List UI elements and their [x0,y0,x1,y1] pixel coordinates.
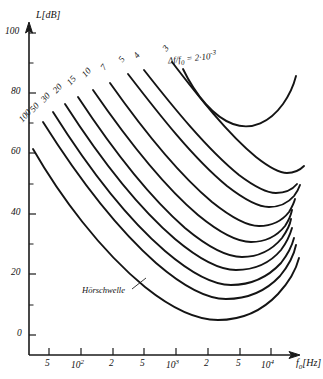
y-tick-label-20: 20 [11,268,21,278]
y-axis-title: L[dB] [36,10,60,20]
x-tick-label-1000: 103 [166,359,179,371]
curve-7 [110,83,295,226]
x-axis-title: f0[Hz] [296,358,321,371]
axis-group [26,22,301,359]
curve-set [33,62,304,320]
y-tick-label-60: 60 [11,147,21,157]
curve-4 [144,70,297,193]
hoerschwelle-leader [132,278,146,289]
curve-10 [93,90,292,242]
x-tick-label-200: 2 [109,359,114,369]
hearing-threshold-annotation: Hörschwelle [82,286,125,295]
curve-top-outer [183,69,296,126]
x-tick-label-500: 5 [140,359,145,369]
x-tick-label-2000: 2 [204,359,209,369]
curve-30 [53,112,294,285]
x-tick-label-10000: 104 [261,359,274,371]
chart-figure: L[dB] 100 80 60 40 20 0 5 102 2 5 103 2 … [0,0,323,379]
chart-plot-area [0,0,323,379]
y-tick-label-100: 100 [5,27,19,37]
curve-50 [43,122,296,299]
y-tick-label-0: 0 [17,329,22,339]
y-ticks [29,33,36,335]
y-tick-label-80: 80 [11,87,21,97]
x-tick-label-100: 102 [71,359,84,371]
y-tick-label-40: 40 [11,208,21,218]
x-ticks [49,348,271,355]
curve-3 [172,62,304,173]
x-tick-label-50: 5 [45,359,50,369]
curve-100 [33,149,299,320]
x-tick-label-5000: 5 [236,359,241,369]
